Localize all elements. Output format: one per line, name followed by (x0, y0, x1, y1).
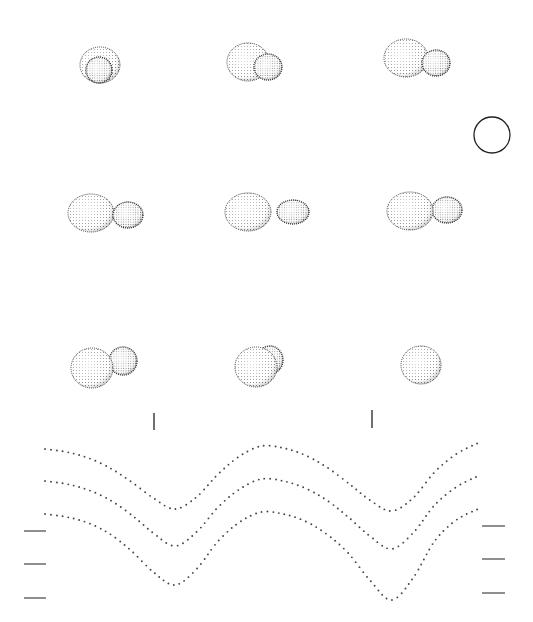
light-curve-2 (44, 476, 477, 550)
primary-star-icon (387, 192, 433, 230)
phase-tick-marks (154, 410, 372, 430)
reference-bars (24, 526, 505, 598)
binary-panel-2 (227, 43, 282, 81)
binary-panel-5 (225, 193, 309, 231)
reference-circle-icon (474, 117, 510, 153)
secondary-star-icon (432, 197, 462, 223)
secondary-star-icon (113, 202, 143, 228)
binary-panel-6 (387, 192, 462, 230)
binary-star-panels (68, 39, 462, 388)
secondary-star-icon (422, 50, 450, 76)
binary-panel-7 (71, 347, 137, 388)
primary-star-icon (225, 193, 271, 231)
binary-panel-8 (235, 346, 283, 387)
primary-star-icon (68, 194, 114, 232)
primary-star-icon (384, 39, 428, 77)
secondary-star-icon (86, 57, 112, 83)
binary-panel-3 (384, 39, 450, 77)
binary-panel-1 (80, 47, 120, 83)
binary-panel-9 (401, 346, 441, 384)
secondary-star-icon (254, 54, 282, 80)
light-curves (44, 443, 478, 601)
secondary-star-icon (277, 200, 309, 224)
primary-star-icon (71, 348, 113, 388)
primary-star-icon (235, 347, 277, 387)
binary-panel-4 (68, 194, 143, 232)
reference-circle (474, 117, 510, 153)
primary-star-icon (401, 346, 441, 384)
light-curve-3 (44, 508, 478, 600)
figure-canvas (0, 0, 533, 622)
light-curve-1 (44, 443, 478, 512)
